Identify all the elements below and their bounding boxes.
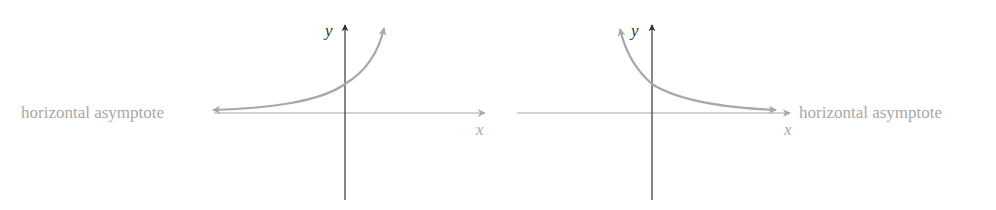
graph-growth: y x horizontal asymptote [21, 21, 485, 200]
y-axis-label: y [323, 21, 333, 40]
graph-decay: y x horizontal asymptote [517, 21, 942, 200]
x-axis-label: x [783, 120, 792, 139]
diagram-canvas: y x horizontal asymptote y x horizontal … [0, 0, 996, 210]
asymptote-label: horizontal asymptote [21, 103, 164, 122]
decay-curve [620, 29, 776, 110]
x-axis-label: x [475, 120, 484, 139]
y-axis-label: y [629, 21, 639, 40]
growth-curve [213, 28, 384, 110]
asymptote-label: horizontal asymptote [799, 103, 942, 122]
